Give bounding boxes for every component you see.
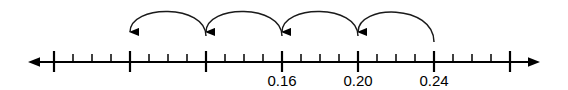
- axis-right-arrowhead: [528, 57, 540, 67]
- jump-arc: [206, 11, 282, 36]
- jump-arc: [130, 11, 206, 36]
- tick-label-024: 0.24: [419, 72, 448, 89]
- jump-arc-group: [130, 11, 434, 42]
- tick-label-016: 0.16: [267, 72, 296, 89]
- tick-label-group: 0.16 0.20 0.24: [267, 72, 448, 89]
- jump-arc: [358, 12, 434, 42]
- axis-left-arrowhead: [28, 57, 40, 67]
- jump-arc: [282, 11, 358, 36]
- number-line-diagram: 0.16 0.20 0.24: [0, 0, 568, 90]
- number-line-figure: 0.16 0.20 0.24: [0, 0, 568, 90]
- tick-label-020: 0.20: [343, 72, 372, 89]
- axis-line-group: [28, 57, 540, 67]
